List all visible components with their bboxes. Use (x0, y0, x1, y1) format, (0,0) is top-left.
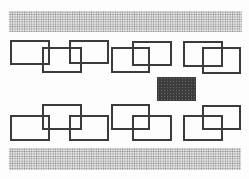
center-dark-block (157, 77, 196, 101)
table-10 (69, 115, 109, 141)
table-3 (69, 40, 109, 64)
table-5 (132, 41, 172, 66)
top-dotted-band (9, 11, 242, 32)
table-12 (132, 115, 172, 141)
table-7 (202, 47, 241, 74)
bottom-dotted-band (9, 148, 241, 170)
layout-diagram (0, 0, 249, 179)
table-14 (202, 105, 241, 130)
